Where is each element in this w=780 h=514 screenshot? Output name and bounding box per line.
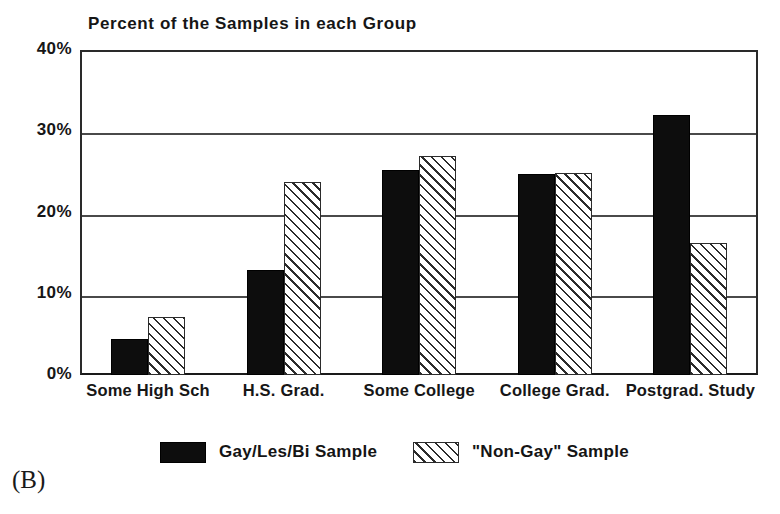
legend-swatch-hatched-icon	[413, 442, 459, 463]
figure-panel-b: Percent of the Samples in each Group 0%1…	[0, 0, 780, 514]
y-tick-label: 20%	[0, 202, 72, 222]
bar	[148, 317, 185, 375]
chart-title: Percent of the Samples in each Group	[88, 14, 417, 34]
y-tick-label: 10%	[0, 283, 72, 303]
x-tick-label: Some High Sch	[80, 381, 216, 400]
x-axis: Some High SchH.S. Grad.Some CollegeColle…	[0, 381, 780, 407]
bar	[518, 174, 555, 376]
y-tick-label: 30%	[0, 120, 72, 140]
legend-label: Gay/Les/Bi Sample	[219, 442, 377, 462]
bar	[111, 339, 148, 375]
legend-swatch-solid-icon	[160, 442, 206, 463]
bar	[653, 115, 690, 375]
bars-layer	[80, 50, 758, 375]
x-tick-label: Postgrad. Study	[623, 381, 759, 400]
bar	[555, 173, 592, 375]
x-tick-label: College Grad.	[487, 381, 623, 400]
chart-legend: Gay/Les/Bi Sample"Non-Gay" Sample	[0, 437, 780, 471]
legend-label: "Non-Gay" Sample	[472, 442, 629, 462]
bar	[419, 156, 456, 375]
panel-label: (B)	[12, 466, 45, 494]
bar	[690, 243, 727, 375]
legend-item: "Non-Gay" Sample	[413, 437, 629, 467]
bar	[382, 170, 419, 375]
y-tick-label: 40%	[0, 39, 72, 59]
legend-item: Gay/Les/Bi Sample	[160, 437, 377, 467]
x-tick-label: Some College	[351, 381, 487, 400]
bar	[247, 270, 284, 375]
bar	[284, 182, 321, 375]
x-tick-label: H.S. Grad.	[216, 381, 352, 400]
